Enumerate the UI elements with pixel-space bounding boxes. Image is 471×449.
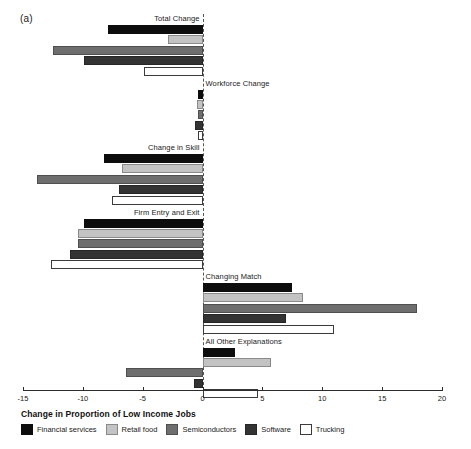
bar-semiconductors <box>126 368 203 377</box>
bar-retail-food <box>203 358 271 367</box>
zero-reference-line <box>203 14 204 390</box>
bar-trucking <box>198 131 203 140</box>
bar-financial-services <box>203 348 235 357</box>
x-axis-tick <box>262 387 263 391</box>
bar-trucking <box>112 196 203 205</box>
chart-group: Change in Skill <box>0 143 471 199</box>
x-axis-tick-label: -5 <box>139 394 146 403</box>
bar-financial-services <box>108 25 203 34</box>
x-axis-tick <box>442 387 443 391</box>
x-axis-tick-label: 0 <box>200 394 204 403</box>
chart-plot-area: Total ChangeWorkforce ChangeChange in Sk… <box>0 0 471 396</box>
bar-software <box>195 121 202 130</box>
bar-trucking <box>51 260 203 269</box>
bar-retail-food <box>168 35 203 44</box>
swatch-retail-food <box>106 424 118 435</box>
bar-software <box>119 185 203 194</box>
x-axis-tick <box>203 387 204 391</box>
group-label-total-change: Total Change <box>154 14 202 23</box>
x-axis-tick <box>83 387 84 391</box>
legend-label: Financial services <box>37 425 97 434</box>
bar-software <box>194 379 202 388</box>
bar-semiconductors <box>37 175 202 184</box>
x-axis-tick <box>322 387 323 391</box>
bar-semiconductors <box>53 46 203 55</box>
legend-item-semiconductors[interactable]: Semiconductors <box>166 424 236 435</box>
group-label-all-other-explanations: All Other Explanations <box>203 337 282 346</box>
bar-retail-food <box>197 100 203 109</box>
bar-semiconductors <box>78 239 203 248</box>
legend-item-financial-services[interactable]: Financial services <box>21 424 97 435</box>
x-axis: -15-10-505101520 <box>0 390 471 410</box>
x-axis-tick-label: -10 <box>77 394 88 403</box>
legend-item-trucking[interactable]: Trucking <box>300 424 344 435</box>
x-axis-tick-label: 20 <box>438 394 446 403</box>
x-axis-tick <box>143 387 144 391</box>
swatch-financial-services <box>21 424 33 435</box>
legend-label: Retail food <box>122 425 158 434</box>
x-axis-tick-label: 10 <box>318 394 326 403</box>
x-axis-tick-label: 5 <box>260 394 264 403</box>
bar-software <box>203 314 287 323</box>
chart-group: Changing Match <box>0 272 471 328</box>
bar-software <box>84 56 203 65</box>
bar-financial-services <box>203 283 293 292</box>
legend-label: Semiconductors <box>182 425 236 434</box>
bar-retail-food <box>203 293 304 302</box>
swatch-software <box>245 424 257 435</box>
chart-group: Total Change <box>0 14 471 70</box>
chart-group: Firm Entry and Exit <box>0 208 471 264</box>
x-axis-line <box>23 390 443 391</box>
group-label-changing-match: Changing Match <box>203 272 262 281</box>
bar-retail-food <box>122 164 202 173</box>
legend-item-software[interactable]: Software <box>245 424 291 435</box>
x-axis-tick-label: -15 <box>18 394 29 403</box>
group-label-workforce-change: Workforce Change <box>203 79 270 88</box>
swatch-trucking <box>300 424 312 435</box>
legend-items: Financial servicesRetail foodSemiconduct… <box>21 424 451 435</box>
x-axis-tick <box>23 387 24 391</box>
group-label-firm-entry-and-exit: Firm Entry and Exit <box>134 208 203 217</box>
legend-label: Software <box>261 425 291 434</box>
bar-financial-services <box>104 154 202 163</box>
legend-title: Change in Proportion of Low Income Jobs <box>21 409 451 419</box>
bar-trucking <box>203 325 335 334</box>
legend-label: Trucking <box>316 425 344 434</box>
bar-financial-services <box>198 90 203 99</box>
chart-group: All Other Explanations <box>0 337 471 393</box>
chart-legend: Change in Proportion of Low Income Jobs … <box>21 409 451 435</box>
bar-trucking <box>144 67 203 76</box>
swatch-semiconductors <box>166 424 178 435</box>
x-axis-tick-label: 15 <box>378 394 386 403</box>
chart-group: Workforce Change <box>0 79 471 135</box>
group-label-change-in-skill: Change in Skill <box>148 143 203 152</box>
bar-software <box>70 250 203 259</box>
x-axis-tick <box>382 387 383 391</box>
bar-semiconductors <box>198 110 203 119</box>
legend-item-retail-food[interactable]: Retail food <box>106 424 158 435</box>
bar-semiconductors <box>203 304 417 313</box>
bar-retail-food <box>78 229 203 238</box>
bar-financial-services <box>84 219 203 228</box>
